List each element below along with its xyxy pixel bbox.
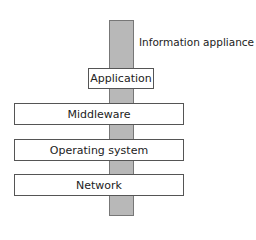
layer-label: Operating system bbox=[50, 144, 148, 157]
layer-label: Middleware bbox=[67, 108, 130, 121]
layer-operating-system: Operating system bbox=[14, 139, 184, 161]
information-appliance-label: Information appliance bbox=[139, 36, 254, 48]
layer-label: Network bbox=[76, 179, 122, 192]
layer-application: Application bbox=[88, 68, 154, 89]
layer-label: Application bbox=[90, 72, 151, 85]
layer-middleware: Middleware bbox=[14, 103, 184, 125]
layer-network: Network bbox=[14, 174, 184, 196]
